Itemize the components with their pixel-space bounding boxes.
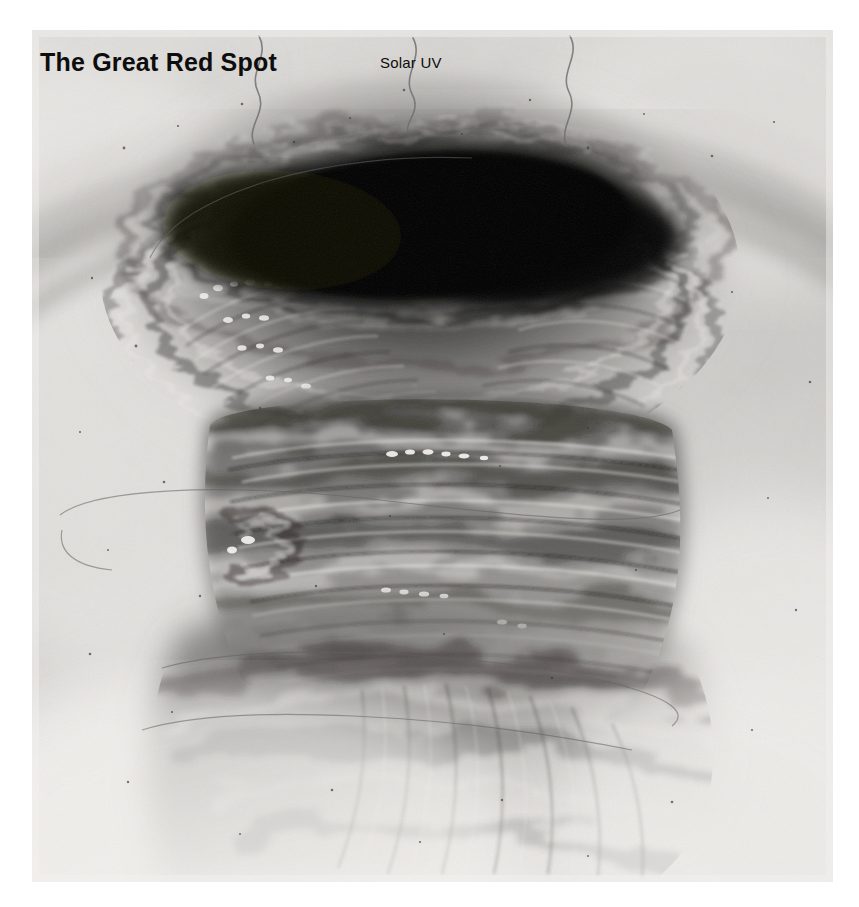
illustration-plate bbox=[32, 30, 833, 882]
great-red-spot-illustration bbox=[32, 30, 833, 882]
figure-root: The Great Red Spot Solar UV bbox=[0, 0, 859, 907]
solar-uv-label: Solar UV bbox=[380, 55, 442, 70]
page-title: The Great Red Spot bbox=[40, 50, 277, 75]
plate-grain bbox=[32, 30, 833, 882]
